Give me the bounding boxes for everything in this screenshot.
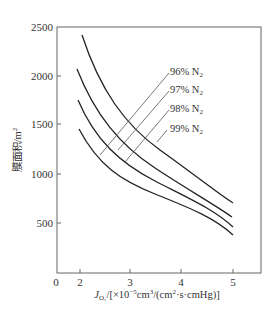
- chart-svg: 2500 2000 1500 1000 500 0 2 3 4 5 膜面积/m2…: [0, 0, 277, 313]
- curve-96-n2: [82, 35, 233, 203]
- x-axis-title: JO₂/[×10−5cm3/(cm2·s·cmHg)]: [94, 288, 219, 302]
- x-tick-2: 2: [77, 276, 83, 288]
- x-tick-4: 4: [178, 276, 184, 288]
- label-97-n2: 97% N2: [170, 84, 203, 97]
- leader-97: [118, 91, 169, 150]
- y-tick-2000: 2000: [31, 70, 54, 82]
- x-tick-5: 5: [230, 276, 236, 288]
- y-axis-title: 膜面积/m2: [11, 127, 23, 172]
- x-tick-0: 0: [53, 276, 59, 288]
- curve-98-n2: [78, 100, 233, 227]
- y-axis-ticks: [57, 76, 61, 223]
- label-96-n2: 96% N2: [170, 66, 203, 79]
- leader-99: [157, 130, 167, 142]
- curve-97-n2: [77, 69, 232, 217]
- y-tick-1500: 1500: [31, 118, 54, 130]
- label-98-n2: 98% N2: [170, 103, 203, 116]
- label-99-n2: 99% N2: [170, 123, 203, 136]
- x-axis-ticks: [80, 269, 233, 273]
- leader-96: [100, 73, 169, 155]
- y-tick-1000: 1000: [31, 168, 54, 180]
- x-tick-3: 3: [127, 276, 133, 288]
- y-tick-500: 500: [37, 217, 54, 229]
- y-tick-2500: 2500: [31, 21, 54, 33]
